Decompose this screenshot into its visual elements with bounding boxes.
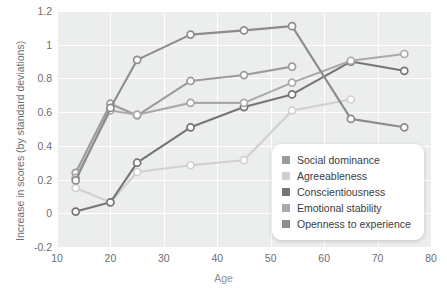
legend-item-label: Social dominance (297, 155, 380, 166)
data-point-marker (289, 23, 296, 30)
chart-legend: Social dominanceAgreeablenessConscientio… (272, 144, 424, 240)
data-point-marker (187, 31, 194, 38)
data-point-marker (289, 79, 296, 86)
legend-item-label: Openness to experience (297, 219, 411, 230)
data-point-marker (187, 162, 194, 169)
y-tick-label: 1.2 (8, 6, 52, 17)
x-tick-label: 40 (197, 253, 237, 264)
legend-swatch-icon (282, 188, 290, 196)
legend-swatch-icon (282, 204, 290, 212)
line-chart: 1.210.80.60.40.20-0.2 1020304050607080 I… (0, 0, 447, 290)
legend-item: Agreeableness (282, 168, 411, 184)
x-tick-label: 60 (304, 253, 344, 264)
legend-item-label: Agreeableness (297, 171, 367, 182)
data-point-marker (134, 111, 141, 118)
data-point-marker (347, 57, 354, 64)
data-point-marker (401, 50, 408, 57)
data-point-marker (134, 56, 141, 63)
data-point-marker (241, 157, 248, 164)
data-point-marker (241, 72, 248, 79)
data-point-marker (289, 63, 296, 70)
legend-item: Conscientiousness (282, 184, 411, 200)
data-point-marker (289, 91, 296, 98)
x-tick-label: 30 (144, 253, 184, 264)
data-point-marker (187, 77, 194, 84)
legend-item-label: Conscientiousness (297, 187, 385, 198)
data-point-marker (134, 159, 141, 166)
series-line (76, 67, 292, 173)
data-point-marker (187, 124, 194, 131)
gridline-vertical (431, 11, 432, 247)
legend-item: Social dominance (282, 152, 411, 168)
legend-swatch-icon (282, 156, 290, 164)
y-axis-label: Increase in scores (by standard deviatio… (14, 41, 26, 241)
x-axis-label: Age (0, 272, 447, 284)
y-tick-label: -0.2 (8, 242, 52, 253)
data-point-marker (241, 27, 248, 34)
data-point-marker (401, 67, 408, 74)
data-point-marker (134, 168, 141, 175)
legend-swatch-icon (282, 172, 290, 180)
legend-item: Emotional stability (282, 200, 411, 216)
data-point-marker (107, 199, 114, 206)
data-point-marker (72, 185, 79, 192)
legend-item-label: Emotional stability (297, 203, 382, 214)
data-point-marker (347, 96, 354, 103)
x-tick-label: 10 (37, 253, 77, 264)
x-tick-label: 70 (358, 253, 398, 264)
legend-swatch-icon (282, 220, 290, 228)
data-point-marker (401, 124, 408, 131)
x-tick-label: 20 (90, 253, 130, 264)
legend-item: Openness to experience (282, 216, 411, 232)
data-point-marker (72, 177, 79, 184)
data-point-marker (347, 115, 354, 122)
data-point-marker (289, 107, 296, 114)
gridline-horizontal (57, 247, 431, 248)
x-tick-label: 50 (251, 253, 291, 264)
data-point-marker (241, 99, 248, 106)
data-point-marker (107, 104, 114, 111)
data-point-marker (72, 208, 79, 215)
data-point-marker (187, 99, 194, 106)
x-tick-label: 80 (411, 253, 447, 264)
